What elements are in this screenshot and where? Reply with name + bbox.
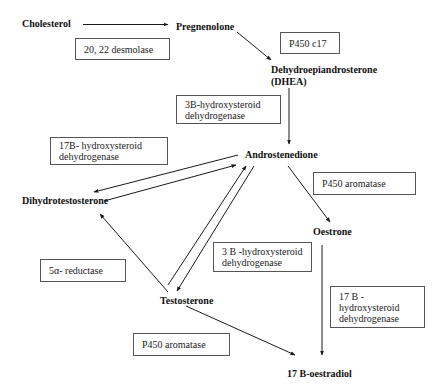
enzyme-box-p450-c17: P450 c17 (280, 32, 340, 54)
node-testosterone: Testosterone (160, 295, 213, 307)
node-oestrone: Oestrone (313, 226, 352, 238)
enzyme-label: 5α- reductase (49, 265, 125, 276)
node-dhea: Dehydroepiandrosterone (DHEA) (271, 64, 377, 88)
node-dhea-abbrev: (DHEA) (271, 76, 377, 88)
enzyme-label: 17 B - (339, 291, 424, 302)
enzyme-box-desmolase: 20, 22 desmolase (75, 38, 170, 60)
arrow-pregnenolone-dhea (237, 32, 271, 60)
enzyme-box-p450-aromatase-right: P450 aromatase (313, 172, 416, 195)
enzyme-label: P450 c17 (289, 38, 339, 49)
enzyme-label: dehydrogenase (59, 151, 167, 162)
enzyme-box-17b-hsd-right: 17 B - hydroxysteroid dehydrogenase (330, 286, 425, 328)
enzyme-box-5a-reductase: 5α- reductase (40, 259, 126, 282)
enzyme-label: P450 aromatase (142, 339, 229, 350)
enzyme-box-p450-aromatase-lower: P450 aromatase (133, 333, 230, 356)
enzyme-label: hydroxysteroid (339, 302, 424, 313)
node-dhea-name: Dehydroepiandrosterone (271, 64, 377, 76)
steroidogenesis-diagram: Cholesterol Pregnenolone Dehydroepiandro… (0, 0, 444, 389)
enzyme-label: dehydrogenase (222, 257, 311, 268)
enzyme-label: dehydrogenase (185, 110, 280, 121)
enzyme-label: 3B-hydroxysteroid (185, 99, 280, 110)
enzyme-label: 20, 22 desmolase (84, 44, 169, 55)
enzyme-label: 17B- hydroxysteroid (59, 140, 167, 151)
node-dihydrotestosterone: Dihydrotestosterone (22, 195, 108, 207)
enzyme-label: 3 B -hydroxysteroid (222, 246, 311, 257)
arrow-androstenedione-testosterone (177, 166, 254, 291)
arrow-dht-androstenedione (104, 165, 236, 201)
enzyme-box-3b-hsd-lower: 3 B -hydroxysteroid dehydrogenase (213, 242, 312, 272)
enzyme-label: P450 aromatase (322, 178, 415, 189)
enzyme-box-17b-hsd-left: 17B- hydroxysteroid dehydrogenase (50, 137, 168, 165)
enzyme-box-3b-hsd-upper: 3B-hydroxysteroid dehydrogenase (176, 95, 281, 124)
node-oestradiol: 17 B-oestradiol (287, 368, 352, 380)
enzyme-label: dehydrogenase (339, 313, 424, 324)
node-pregnenolone: Pregnenolone (176, 21, 234, 33)
node-cholesterol: Cholesterol (22, 18, 71, 30)
node-androstenedione: Androstenedione (245, 149, 318, 161)
